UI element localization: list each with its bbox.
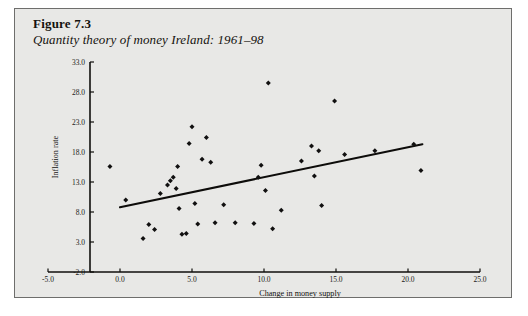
trend-line bbox=[120, 144, 422, 207]
y-axis-tick-label: -2.0 bbox=[73, 268, 85, 277]
x-axis-tick-label: 0.0 bbox=[115, 275, 125, 284]
data-point bbox=[319, 203, 324, 208]
x-axis-title: Change in money supply bbox=[259, 289, 342, 298]
y-axis-title: Inflation rate bbox=[51, 135, 60, 178]
data-point bbox=[266, 81, 271, 86]
data-point bbox=[187, 141, 192, 146]
data-point bbox=[200, 157, 205, 162]
x-axis-tick-label: 5.0 bbox=[187, 275, 197, 284]
trend-line-group bbox=[120, 144, 422, 207]
data-point bbox=[179, 232, 184, 237]
y-axis-tick-label: 3.0 bbox=[76, 238, 86, 247]
y-axis-tick-label: 13.0 bbox=[72, 178, 85, 187]
data-point bbox=[171, 175, 176, 180]
x-axis-tick-label: 10.0 bbox=[257, 275, 270, 284]
data-point bbox=[309, 144, 314, 149]
data-point bbox=[208, 160, 213, 165]
data-point bbox=[251, 221, 256, 226]
data-point bbox=[259, 163, 264, 168]
data-point bbox=[190, 124, 195, 129]
plot-svg: -2.03.08.013.018.023.028.033.0-5.00.05.0… bbox=[15, 9, 513, 299]
figure-card: Figure 7.3 Quantity theory of money Irel… bbox=[14, 8, 512, 298]
y-axis-tick-label: 18.0 bbox=[72, 148, 85, 157]
data-point bbox=[221, 202, 226, 207]
data-point bbox=[165, 183, 170, 188]
x-axis-tick-label: 25.0 bbox=[473, 275, 486, 284]
data-point bbox=[168, 178, 173, 183]
data-point bbox=[175, 164, 180, 169]
y-axis-tick-label: 28.0 bbox=[72, 88, 85, 97]
data-point bbox=[192, 201, 197, 206]
data-point bbox=[146, 222, 151, 227]
data-point bbox=[418, 168, 423, 173]
data-point bbox=[312, 174, 317, 179]
data-point bbox=[372, 148, 377, 153]
data-point bbox=[213, 220, 218, 225]
data-point bbox=[279, 208, 284, 213]
y-axis-tick-label: 8.0 bbox=[76, 208, 86, 217]
x-axis-tick-label: 15.0 bbox=[329, 275, 342, 284]
data-point bbox=[177, 206, 182, 211]
x-axis-tick-label: -5.0 bbox=[42, 275, 54, 284]
data-point bbox=[174, 186, 179, 191]
data-point bbox=[233, 220, 238, 225]
data-point bbox=[204, 135, 209, 140]
y-axis-tick-label: 23.0 bbox=[72, 118, 85, 127]
y-axis-tick-label: 33.0 bbox=[72, 58, 85, 67]
data-point bbox=[270, 226, 275, 231]
data-point bbox=[107, 164, 112, 169]
axis-ticks-group bbox=[48, 62, 480, 272]
axes-group bbox=[48, 62, 480, 272]
scatter-plot: -2.03.08.013.018.023.028.033.0-5.00.05.0… bbox=[15, 9, 513, 299]
data-points-group bbox=[107, 81, 423, 241]
data-point bbox=[332, 99, 337, 104]
data-point bbox=[263, 188, 268, 193]
data-point bbox=[123, 198, 128, 203]
data-point bbox=[299, 159, 304, 164]
data-point bbox=[158, 191, 163, 196]
data-point bbox=[184, 231, 189, 236]
data-point bbox=[342, 152, 347, 157]
data-point bbox=[316, 148, 321, 153]
data-point bbox=[195, 222, 200, 227]
x-axis-tick-label: 20.0 bbox=[401, 275, 414, 284]
data-point bbox=[152, 227, 157, 232]
data-point bbox=[141, 236, 146, 241]
